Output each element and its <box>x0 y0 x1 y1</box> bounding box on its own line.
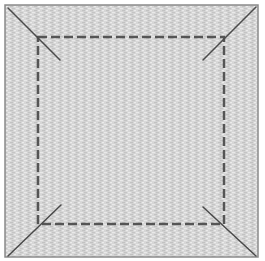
fabric-swatch-diagram <box>0 0 265 261</box>
